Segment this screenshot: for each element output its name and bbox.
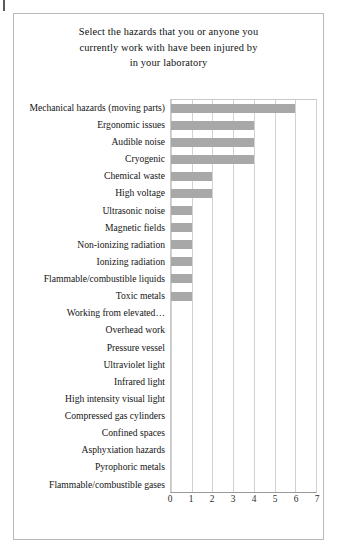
bar-row <box>171 236 316 253</box>
category-label: High intensity visual light <box>14 390 169 407</box>
bar-row <box>171 219 316 236</box>
bar <box>171 223 192 232</box>
x-tick-label: 0 <box>168 495 173 504</box>
bar-row <box>171 305 316 322</box>
x-tick-label: 1 <box>189 495 194 504</box>
category-label: Confined spaces <box>14 424 169 441</box>
chart-container: Select the hazards that you or anyone yo… <box>13 13 324 540</box>
gridline <box>316 100 317 492</box>
plot-wrapper: Mechanical hazards (moving parts)Ergonom… <box>14 86 325 526</box>
category-label: Mechanical hazards (moving parts) <box>14 99 169 116</box>
bar-row <box>171 288 316 305</box>
bar-row <box>171 458 316 475</box>
bar-row <box>171 253 316 270</box>
category-label: Flammable/combustible liquids <box>14 270 169 287</box>
bar <box>171 138 254 147</box>
bar-row <box>171 475 316 492</box>
bar-row <box>171 390 316 407</box>
bar <box>171 121 254 130</box>
bar-row <box>171 339 316 356</box>
category-label: Infrared light <box>14 373 169 390</box>
category-label: Cryogenic <box>14 150 169 167</box>
x-axis-tick-labels: 01234567 <box>170 495 317 511</box>
category-label: Overhead work <box>14 322 169 339</box>
bar <box>171 292 192 301</box>
bar <box>171 104 295 113</box>
bar-row <box>171 322 316 339</box>
bar-row <box>171 356 316 373</box>
x-tick-label: 6 <box>294 495 299 504</box>
bar-row <box>171 134 316 151</box>
x-tick-label: 5 <box>273 495 278 504</box>
x-tick-label: 2 <box>210 495 215 504</box>
bar-row <box>171 168 316 185</box>
chart-title-line-1: Select the hazards that you or anyone yo… <box>14 24 323 40</box>
x-tick-label: 4 <box>252 495 257 504</box>
category-label: Ultraviolet light <box>14 356 169 373</box>
x-tick-label: 3 <box>231 495 236 504</box>
bar <box>171 240 192 249</box>
bar <box>171 274 192 283</box>
category-label: Pyrophoric metals <box>14 459 169 476</box>
bar-row <box>171 151 316 168</box>
bar-row <box>171 117 316 134</box>
bar-series <box>171 100 316 492</box>
chart-title-line-3: in your laboratory <box>14 55 323 71</box>
category-label: Magnetic fields <box>14 219 169 236</box>
bar-row <box>171 270 316 287</box>
bar <box>171 206 192 215</box>
plot-area <box>170 99 317 493</box>
category-label: Toxic metals <box>14 287 169 304</box>
bar-row <box>171 407 316 424</box>
bar-row <box>171 441 316 458</box>
bar <box>171 155 254 164</box>
bar <box>171 189 212 198</box>
category-label: Non-ionizing radiation <box>14 236 169 253</box>
category-label: Compressed gas cylinders <box>14 407 169 424</box>
bar-row <box>171 373 316 390</box>
page-corner-mark <box>3 0 5 11</box>
category-label: Pressure vessel <box>14 339 169 356</box>
category-label: High voltage <box>14 185 169 202</box>
category-axis-labels: Mechanical hazards (moving parts)Ergonom… <box>14 99 169 493</box>
bar-row <box>171 424 316 441</box>
category-label: Flammable/combustible gases <box>14 476 169 493</box>
category-label: Working from elevated… <box>14 305 169 322</box>
category-label: Audible noise <box>14 133 169 150</box>
chart-title: Select the hazards that you or anyone yo… <box>14 24 323 71</box>
category-label: Asphyxiation hazards <box>14 442 169 459</box>
bar-row <box>171 185 316 202</box>
x-tick-label: 7 <box>315 495 320 504</box>
chart-title-line-2: currently work with have been injured by <box>14 40 323 56</box>
category-label: Ultrasonic noise <box>14 202 169 219</box>
category-label: Ergonomic issues <box>14 116 169 133</box>
category-label: Ionizing radiation <box>14 253 169 270</box>
bar <box>171 172 212 181</box>
category-label: Chemical waste <box>14 168 169 185</box>
bar-row <box>171 202 316 219</box>
bar <box>171 257 192 266</box>
bar-row <box>171 100 316 117</box>
